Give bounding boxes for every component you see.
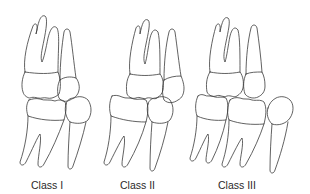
upper-premolar-root (60, 29, 76, 80)
upper-molar-roots (129, 20, 160, 74)
upper-molar-crown (206, 72, 243, 97)
panel-class-2: Class II (100, 0, 200, 194)
upper-premolar-crown (244, 72, 265, 98)
class-3-label: Class III (218, 179, 256, 191)
lower-molar-distal-roots (190, 116, 226, 163)
upper-premolar-crown (163, 76, 185, 103)
class-2-teeth-drawing (100, 0, 200, 194)
upper-premolar-root (246, 25, 262, 74)
upper-molar-crown (126, 74, 163, 99)
lower-molar-crown (110, 95, 148, 122)
class-2-label: Class II (120, 179, 155, 191)
upper-premolar-crown (58, 77, 80, 101)
lower-premolar-root (150, 122, 168, 171)
lower-molar-roots (222, 120, 264, 167)
panel-class-1: Class I (0, 0, 100, 194)
lower-premolar-crown (147, 97, 173, 124)
upper-premolar-root (164, 29, 181, 80)
lower-premolar-root (68, 122, 86, 169)
lower-premolar-root (270, 122, 288, 173)
panel-class-3: Class III (190, 0, 310, 194)
lower-premolar-crown (267, 97, 293, 125)
lower-molar-roots (20, 116, 64, 167)
class-1-teeth-drawing (0, 0, 100, 194)
upper-molar-roots (209, 18, 240, 72)
upper-molar-crown (22, 72, 60, 98)
lower-molar-crown (27, 99, 66, 121)
upper-molar-roots (24, 16, 58, 72)
malocclusion-diagram: Class I Class II (0, 0, 310, 194)
lower-molar-crown (228, 98, 266, 125)
lower-molar-distal-crown (196, 95, 228, 121)
lower-molar-roots (104, 116, 146, 167)
class-1-label: Class I (31, 179, 63, 191)
class-3-teeth-drawing (190, 0, 310, 194)
